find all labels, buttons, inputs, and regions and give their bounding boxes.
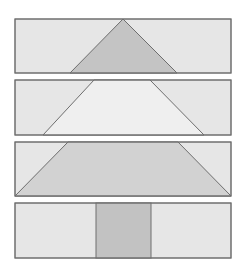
shapes-diagram bbox=[0, 0, 242, 273]
light-trapezoid-panel bbox=[15, 80, 231, 135]
rectangle-shape bbox=[96, 203, 151, 258]
wide-trapezoid-panel bbox=[15, 142, 231, 196]
triangle-panel bbox=[15, 19, 231, 73]
rectangle-panel bbox=[15, 203, 231, 258]
